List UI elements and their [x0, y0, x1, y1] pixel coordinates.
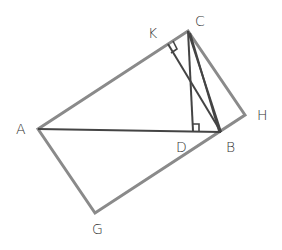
- interior-lines: [38, 31, 221, 132]
- label-h: H: [257, 107, 268, 123]
- label-c: C: [195, 13, 205, 29]
- label-g: G: [92, 221, 103, 237]
- segment-cb-inner: [190, 33, 219, 131]
- label-k: K: [148, 25, 158, 41]
- segment-kb: [168, 44, 221, 132]
- label-d: D: [176, 139, 187, 155]
- geometry-diagram: A B C D K H G: [0, 0, 282, 250]
- label-b: B: [226, 139, 235, 155]
- label-a: A: [16, 121, 26, 137]
